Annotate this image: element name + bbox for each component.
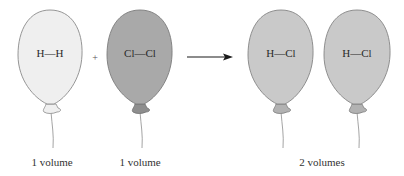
balloon-h2: H—H xyxy=(18,10,82,148)
volume-label-hcl: 2 volumes xyxy=(299,156,345,168)
balloon-knot xyxy=(43,104,60,114)
volume-label-h2: 1 volume xyxy=(31,156,72,168)
gas-volume-diagram: H—H + Cl—Cl H—Cl H—Cl 1 volume 1 volume … xyxy=(0,0,404,176)
balloon-hcl-1: H—Cl xyxy=(248,10,313,148)
formula-hcl-1: H—Cl xyxy=(266,47,295,59)
balloon-string xyxy=(51,112,53,148)
reaction-arrow-icon xyxy=(187,54,233,61)
balloon-knot xyxy=(132,104,149,114)
balloon-string xyxy=(281,112,283,148)
balloon-knot xyxy=(349,104,366,114)
balloon-cl2: Cl—Cl xyxy=(107,10,172,148)
formula-cl2: Cl—Cl xyxy=(124,47,156,59)
balloon-knot xyxy=(273,104,290,114)
balloon-string xyxy=(357,112,359,148)
formula-h2: H—H xyxy=(37,47,64,59)
formula-hcl-2: H—Cl xyxy=(342,47,371,59)
plus-sign: + xyxy=(92,52,98,63)
balloon-string xyxy=(140,112,142,148)
balloon-hcl-2: H—Cl xyxy=(324,10,390,148)
volume-label-cl2: 1 volume xyxy=(119,156,160,168)
